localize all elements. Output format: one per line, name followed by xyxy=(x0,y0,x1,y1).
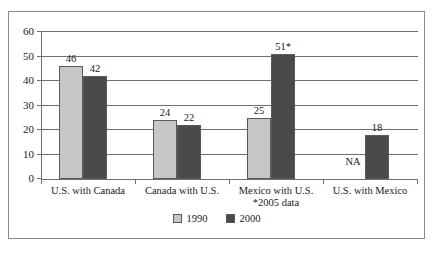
y-tick-label-40: 40 xyxy=(23,75,34,86)
category-label-text: Canada with U.S. xyxy=(145,185,219,196)
y-tick-mark-30 xyxy=(37,105,41,106)
category-label-us-with-canada: U.S. with Canada xyxy=(51,185,125,197)
category-label-canada-with-us: Canada with U.S. xyxy=(145,185,219,197)
gridline-60: 60 xyxy=(41,31,418,32)
y-tick-label-60: 60 xyxy=(23,26,34,37)
legend-swatch-2000-icon xyxy=(226,214,235,223)
bar-2000-canada-with-us xyxy=(177,125,201,179)
y-axis-line xyxy=(41,31,42,180)
bar-label-2000-mexico-with-us: 51* xyxy=(275,42,291,53)
category-label-mexico-with-us: Mexico with U.S. *2005 data xyxy=(239,185,314,209)
bar-label-2000-us-with-mexico: 18 xyxy=(372,123,383,134)
legend-item-1990: 1990 xyxy=(173,214,208,225)
legend-label-1990: 1990 xyxy=(187,214,208,225)
y-tick-mark-50 xyxy=(37,56,41,57)
bar-label-1990-mexico-with-us: 25 xyxy=(254,106,265,117)
x-tick-mark-2 xyxy=(229,179,230,184)
bar-label-2000-canada-with-us: 22 xyxy=(184,113,195,124)
bar-2000-us-with-canada xyxy=(83,76,107,179)
y-tick-label-10: 10 xyxy=(23,148,34,159)
y-tick-label-0: 0 xyxy=(29,173,35,184)
legend-swatch-1990-icon xyxy=(173,214,182,223)
bar-1990-us-with-canada xyxy=(59,66,83,179)
x-tick-mark-4 xyxy=(417,179,418,184)
y-tick-label-20: 20 xyxy=(23,124,34,135)
bar-1990-canada-with-us xyxy=(153,120,177,179)
x-tick-mark-0 xyxy=(41,179,42,184)
bar-label-2000-us-with-canada: 42 xyxy=(90,64,101,75)
plot-area: 60 50 40 30 20 10 0 xyxy=(41,31,418,179)
bar-label-1990-canada-with-us: 24 xyxy=(160,108,171,119)
na-label-1990-us-with-mexico: NA xyxy=(345,157,360,168)
y-tick-mark-10 xyxy=(37,154,41,155)
bar-2000-mexico-with-us xyxy=(271,54,295,179)
y-tick-mark-20 xyxy=(37,129,41,130)
bar-1990-mexico-with-us xyxy=(247,118,271,179)
y-tick-mark-60 xyxy=(37,31,41,32)
category-label-text: U.S. with Mexico xyxy=(333,185,408,196)
chart-legend: 1990 2000 xyxy=(9,214,424,225)
category-label-text: U.S. with Canada xyxy=(51,185,125,196)
legend-label-2000: 2000 xyxy=(240,214,261,225)
category-sublabel-text: *2005 data xyxy=(239,197,314,209)
category-label-us-with-mexico: U.S. with Mexico xyxy=(333,185,408,197)
y-tick-label-50: 50 xyxy=(23,50,34,61)
x-tick-mark-3 xyxy=(323,179,324,184)
x-tick-mark-1 xyxy=(135,179,136,184)
bar-2000-us-with-mexico xyxy=(365,135,389,179)
gridline-50: 50 xyxy=(41,56,418,57)
y-tick-label-30: 30 xyxy=(23,99,34,110)
bar-label-1990-us-with-canada: 46 xyxy=(66,54,77,65)
category-label-text: Mexico with U.S. xyxy=(239,185,314,196)
legend-item-2000: 2000 xyxy=(226,214,261,225)
chart-figure: 60 50 40 30 20 10 0 xyxy=(8,11,425,239)
y-tick-mark-40 xyxy=(37,80,41,81)
